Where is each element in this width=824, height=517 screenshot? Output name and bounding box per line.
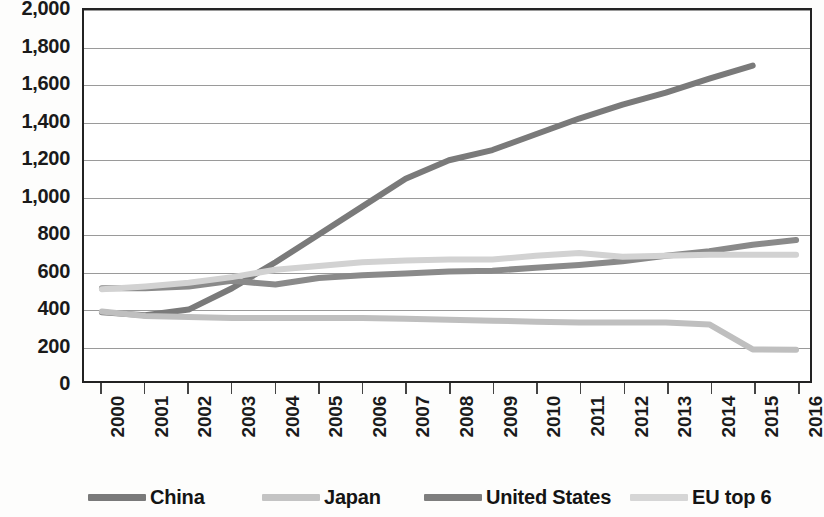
x-tick [754, 383, 756, 394]
legend-swatch-icon [88, 494, 146, 501]
legend-item-eu-top-6[interactable]: EU top 6 [630, 482, 772, 512]
y-tick-label: 1,000 [21, 184, 70, 207]
x-tick-label: 2014 [718, 396, 740, 437]
x-tick [580, 383, 582, 394]
x-axis: 2000200120022003200420052006200720082009… [82, 396, 812, 476]
legend-swatch-icon [424, 494, 482, 501]
y-tick-label: 1,600 [21, 72, 70, 95]
y-tick-label: 800 [38, 222, 70, 245]
y-tick-label: 400 [38, 297, 70, 320]
x-tick [667, 383, 669, 394]
legend-swatch-icon [262, 494, 320, 501]
x-tick-label: 2016 [805, 396, 824, 437]
chart-legend: ChinaJapanUnited StatesEU top 6 [0, 482, 824, 517]
x-tick [405, 383, 407, 394]
x-axis-ticks [82, 383, 812, 395]
y-tick-label: 1,800 [21, 34, 70, 57]
x-tick [318, 383, 320, 394]
y-tick-label: 2,000 [21, 0, 70, 20]
x-tick-label: 2004 [282, 396, 304, 437]
legend-label: EU top 6 [692, 486, 772, 509]
x-tick-label: 2009 [500, 396, 522, 437]
series-layer [84, 10, 810, 381]
x-tick-label: 2012 [631, 396, 653, 437]
x-tick-label: 2010 [543, 396, 565, 437]
y-tick-label: 1,200 [21, 147, 70, 170]
legend-label: China [150, 486, 205, 509]
x-tick-label: 2015 [761, 396, 783, 437]
series-line-china [102, 66, 753, 315]
x-tick-label: 2006 [369, 396, 391, 437]
plot-area [82, 8, 812, 383]
legend-swatch-icon [630, 494, 688, 501]
x-tick [187, 383, 189, 394]
x-tick [275, 383, 277, 394]
x-tick-label: 2008 [456, 396, 478, 437]
x-tick-label: 2005 [325, 396, 347, 437]
x-tick [231, 383, 233, 394]
x-tick [449, 383, 451, 394]
legend-label: Japan [324, 486, 381, 509]
x-tick-label: 2013 [674, 396, 696, 437]
line-chart: 02004006008001,0001,2001,4001,6001,8002,… [0, 0, 824, 517]
x-tick-label: 2001 [151, 396, 173, 437]
x-tick-label: 2002 [194, 396, 216, 437]
x-tick [362, 383, 364, 394]
x-tick [798, 383, 800, 394]
y-tick-label: 200 [38, 334, 70, 357]
legend-item-united-states[interactable]: United States [424, 482, 611, 512]
y-tick-label: 600 [38, 259, 70, 282]
x-tick [624, 383, 626, 394]
x-tick [493, 383, 495, 394]
x-tick [536, 383, 538, 394]
legend-item-china[interactable]: China [88, 482, 205, 512]
y-axis: 02004006008001,0001,2001,4001,6001,8002,… [0, 0, 76, 392]
x-tick-label: 2011 [587, 396, 609, 436]
x-tick [100, 383, 102, 394]
y-tick-label: 0 [59, 372, 70, 395]
legend-item-japan[interactable]: Japan [262, 482, 381, 512]
x-tick-label: 2003 [238, 396, 260, 437]
legend-label: United States [486, 486, 611, 509]
y-tick-label: 1,400 [21, 109, 70, 132]
x-tick-label: 2007 [412, 396, 434, 437]
x-tick-label: 2000 [107, 396, 129, 437]
x-tick [144, 383, 146, 394]
series-line-japan [102, 311, 796, 349]
x-tick [711, 383, 713, 394]
